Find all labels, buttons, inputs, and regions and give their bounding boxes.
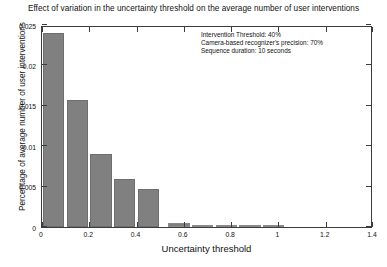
y-axis-tick [42,64,47,65]
x-axis-tick-label: 0.6 [178,231,187,238]
x-axis-tick-label: 1.4 [367,231,376,238]
y-axis-tick [42,186,47,187]
x-axis-tick [326,27,327,32]
x-axis-tick-label: 0.2 [84,231,93,238]
y-axis-tick [366,186,371,187]
x-axis-tick [89,222,90,227]
x-axis-tick [42,27,43,32]
plot-area [41,26,372,228]
x-axis-tick [184,222,185,227]
x-axis-tick [42,222,43,227]
x-axis-tick [278,222,279,227]
annotation-line: Camera-based recognizer's precision: 70% [201,39,323,47]
bars-layer [42,27,371,227]
bar [168,223,189,227]
y-axis-tick [366,64,371,65]
bar [138,189,159,227]
y-axis-tick-label: 0 [2,225,36,232]
bar [216,225,237,227]
x-axis-tick [372,222,373,227]
y-axis-tick-label: 0.01 [2,144,36,151]
x-axis-tick-label: 0.4 [131,231,140,238]
y-axis-tick [366,145,371,146]
x-axis-tick-label: 1.2 [320,231,329,238]
x-axis-tick [372,27,373,32]
bar [239,225,260,227]
y-axis-tick-label: 0.005 [2,184,36,191]
x-axis-tick-label: 0 [39,231,43,238]
bar [43,33,64,227]
x-axis-tick-label: 1 [276,231,280,238]
annotation-line: Sequence duration: 10 seconds [201,47,323,55]
x-axis-label: Uncertainty threshold [41,243,372,254]
y-axis-tick [366,226,371,227]
bar [263,225,284,227]
x-axis-tick [231,222,232,227]
y-axis-tick-label: 0.015 [2,103,36,110]
y-axis-tick [366,24,371,25]
bar [192,225,213,227]
y-axis-tick-label: 0.02 [2,63,36,70]
annotation-line: Intervention Threshold: 40% [201,31,323,39]
x-axis-tick [137,27,138,32]
bar [114,179,135,227]
x-axis-tick-label: 0.8 [225,231,234,238]
annotation-textbox: Intervention Threshold: 40%Camera-based … [201,31,323,56]
y-axis-tick-label: 0.025 [2,23,36,30]
chart-figure: Effect of variation in the uncertainty t… [0,0,387,267]
bar [90,154,111,227]
chart-title: Effect of variation in the uncertainty t… [0,3,387,14]
y-axis-tick [42,105,47,106]
y-axis-tick [366,105,371,106]
x-axis-tick [89,27,90,32]
bar [67,100,88,227]
y-axis-tick [42,24,47,25]
y-axis-tick [42,145,47,146]
x-axis-tick [184,27,185,32]
x-axis-tick [326,222,327,227]
x-axis-tick [137,222,138,227]
